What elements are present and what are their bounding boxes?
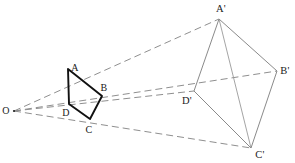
vertex-label-A: A — [71, 63, 78, 73]
ray-O-B-Bprime — [14, 71, 277, 111]
vertex-label-C-prime: C' — [255, 150, 264, 160]
diagonal-Aprime-Cprime — [219, 19, 251, 148]
source-polygon-ABCD — [68, 69, 102, 119]
ray-O-C-Cprime — [14, 111, 251, 148]
image-polygon-diagonals-group — [219, 19, 251, 148]
vertex-label-D: D — [62, 108, 69, 118]
figure-canvas — [0, 0, 295, 163]
image-polygon-AprimeBprimeCprimeDprime — [194, 19, 277, 148]
center-point-O — [13, 110, 15, 112]
vertex-label-O: O — [2, 106, 9, 116]
vertex-label-B-prime: B' — [280, 66, 289, 76]
vertex-label-B: B — [101, 83, 108, 93]
ray-O-D-Dprime — [14, 91, 194, 111]
dilation-rays-group — [14, 19, 277, 148]
vertex-label-D-prime: D' — [182, 96, 192, 106]
geometry-figure: O A B C D A' B' C' D' — [0, 0, 295, 163]
vertex-label-C: C — [86, 125, 93, 135]
vertex-label-A-prime: A' — [216, 4, 226, 14]
